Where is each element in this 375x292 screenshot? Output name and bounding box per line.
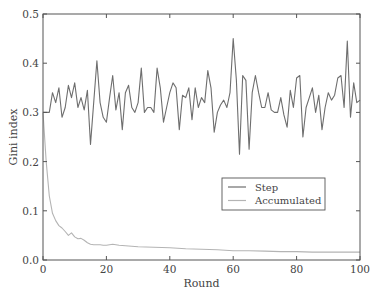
x-tick-label: 80 bbox=[290, 263, 303, 275]
y-tick-label: 0.2 bbox=[22, 156, 39, 168]
legend-label-accumulated: Accumulated bbox=[254, 195, 322, 206]
x-tick-label: 100 bbox=[350, 263, 370, 275]
legend: StepAccumulated bbox=[222, 178, 325, 210]
y-tick-label: 0.3 bbox=[22, 106, 39, 118]
y-tick-label: 0.0 bbox=[22, 254, 39, 266]
y-tick-label: 0.1 bbox=[22, 205, 39, 217]
legend-label-step: Step bbox=[255, 182, 278, 193]
y-tick-label: 0.5 bbox=[22, 8, 39, 20]
x-axis-label: Round bbox=[183, 277, 219, 290]
series-line-step bbox=[43, 39, 360, 155]
x-axis-ticks: 020406080100 bbox=[40, 14, 370, 275]
y-axis-ticks: 0.00.10.20.30.40.5 bbox=[22, 8, 360, 266]
x-tick-label: 60 bbox=[227, 263, 240, 275]
x-tick-label: 20 bbox=[100, 263, 113, 275]
y-tick-label: 0.4 bbox=[22, 57, 39, 69]
x-tick-label: 40 bbox=[163, 263, 176, 275]
x-tick-label: 0 bbox=[40, 263, 47, 275]
y-axis-label: Gini index bbox=[7, 108, 20, 166]
gini-index-chart: 020406080100 0.00.10.20.30.40.5 Round Gi… bbox=[0, 0, 375, 292]
series-layer bbox=[43, 39, 360, 253]
chart-canvas: 020406080100 0.00.10.20.30.40.5 Round Gi… bbox=[0, 0, 375, 292]
